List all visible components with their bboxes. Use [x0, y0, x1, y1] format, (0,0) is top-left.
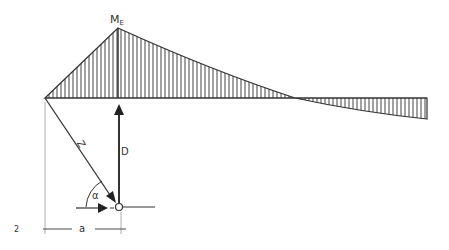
moment-diagram-figure: ME Z D α a 2 [0, 0, 449, 250]
label-alpha: α [92, 190, 99, 201]
negative-moment-area [295, 98, 427, 119]
joint-circle [116, 204, 123, 211]
label-moment-peak: ME [110, 13, 124, 27]
positive-moment-area [45, 28, 295, 98]
label-D: D [121, 146, 129, 157]
figure-number: 2 [14, 225, 19, 234]
arrow-up-icon [114, 104, 124, 115]
arrow-right-icon [98, 203, 108, 213]
label-a: a [79, 223, 85, 234]
arrow-diagonal-icon [106, 191, 116, 203]
label-Z: Z [75, 138, 88, 150]
